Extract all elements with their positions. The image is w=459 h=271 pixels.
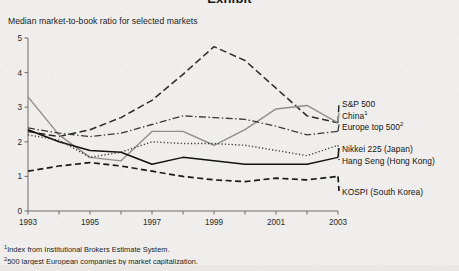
chart-plot-area: 012345199319951997199920012003 <box>0 0 459 271</box>
svg-text:1999: 1999 <box>205 218 224 227</box>
legend-label-hangseng: Hang Seng (Hong Kong) <box>342 156 435 166</box>
legend-label-sp500: S&P 500 <box>342 99 375 109</box>
series-line <box>28 97 338 161</box>
series-line <box>28 163 338 182</box>
svg-text:4: 4 <box>17 69 22 78</box>
legend-leader-line <box>338 113 339 123</box>
legend-leader-line <box>338 176 339 191</box>
footnotes: 1Index from Institutional Brokers Estima… <box>4 243 198 267</box>
legend-label-china: China1 <box>342 110 368 121</box>
svg-text:2: 2 <box>17 138 22 147</box>
svg-text:1995: 1995 <box>81 218 100 227</box>
legend-label-nikkei: Nikkei 225 (Japan) <box>342 144 413 154</box>
svg-text:2003: 2003 <box>329 218 348 227</box>
chart-figure: Exhibit Median market-to-book ratio for … <box>0 0 459 271</box>
axes: 012345199319951997199920012003 <box>17 34 347 227</box>
footnote-1: 1Index from Institutional Brokers Estima… <box>4 243 198 255</box>
svg-text:2001: 2001 <box>267 218 286 227</box>
svg-text:5: 5 <box>17 34 22 43</box>
page-bottom-strip <box>0 265 459 271</box>
svg-text:1993: 1993 <box>19 218 38 227</box>
svg-text:0: 0 <box>17 207 22 216</box>
data-series-group <box>28 47 339 191</box>
legend-label-europe: Europe top 5002 <box>342 121 403 132</box>
legend-leader-line <box>338 124 339 131</box>
series-line <box>28 47 338 137</box>
legend-label-kospi: KOSPI (South Korea) <box>342 187 423 197</box>
svg-text:3: 3 <box>17 103 22 112</box>
svg-text:1: 1 <box>17 172 22 181</box>
svg-text:1997: 1997 <box>143 218 162 227</box>
legend-leader-line <box>338 145 339 160</box>
